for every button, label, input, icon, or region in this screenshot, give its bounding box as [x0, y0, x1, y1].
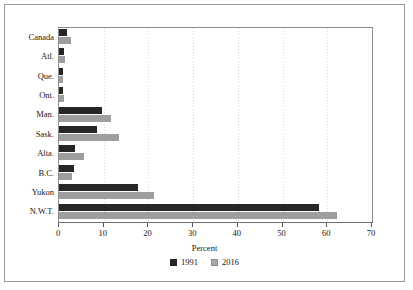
- bar-group: [59, 144, 372, 163]
- category-label-Canada: Canada: [5, 32, 54, 42]
- category-label-Que: Que.: [5, 71, 54, 81]
- bar-2016-Que: [59, 76, 63, 83]
- axis-tick-label: 20: [143, 228, 152, 238]
- category-axis-labels: CanadaAtl.Que.Ont.Man.Sask.Alta.B.C.Yuko…: [5, 27, 54, 223]
- bar-1991-Que: [59, 68, 63, 75]
- legend-item-2016[interactable]: 2016: [211, 257, 239, 267]
- bar-1991-Sask: [59, 126, 97, 133]
- legend-label: 2016: [222, 257, 239, 267]
- axis-tick: [371, 223, 372, 227]
- bar-group: [59, 67, 372, 86]
- category-label-Yukon: Yukon: [5, 187, 54, 197]
- category-label-Man: Man.: [5, 109, 54, 119]
- category-label-BC: B.C.: [5, 168, 54, 178]
- axis-tick-label: 50: [277, 228, 286, 238]
- axis-tick: [192, 223, 193, 227]
- bar-1991-Yukon: [59, 184, 138, 191]
- category-label-Alta: Alta.: [5, 148, 54, 158]
- bar-group: [59, 125, 372, 144]
- axis-tick-label: 30: [188, 228, 197, 238]
- bar-1991-BC: [59, 165, 74, 172]
- bar-group: [59, 106, 372, 125]
- axis-tick: [147, 223, 148, 227]
- light-square-swatch: [211, 259, 218, 266]
- x-axis-title: Percent: [5, 243, 404, 253]
- axis-tick: [58, 223, 59, 227]
- axis-tick: [237, 223, 238, 227]
- bar-2016-Man: [59, 115, 111, 122]
- bar-2016-NWT: [59, 212, 337, 219]
- bar-1991-Atl: [59, 48, 64, 55]
- category-label-Atl: Atl.: [5, 51, 54, 61]
- bar-2016-Yukon: [59, 192, 154, 199]
- axis-tick: [103, 223, 104, 227]
- bar-1991-Ont: [59, 87, 63, 94]
- chart-frame: CanadaAtl.Que.Ont.Man.Sask.Alta.B.C.Yuko…: [4, 4, 405, 282]
- axis-tick-label: 10: [98, 228, 107, 238]
- legend-label: 1991: [181, 257, 198, 267]
- bar-group: [59, 203, 372, 222]
- bar-2016-Ont: [59, 95, 64, 102]
- bar-1991-Canada: [59, 29, 67, 36]
- value-axis: 010203040506070: [58, 223, 373, 237]
- bar-group: [59, 47, 372, 66]
- category-label-NWT: N.W.T.: [5, 206, 54, 216]
- bar-2016-Alta: [59, 153, 84, 160]
- bar-group: [59, 183, 372, 202]
- bar-2016-Sask: [59, 134, 119, 141]
- bar-2016-Atl: [59, 56, 65, 63]
- bar-2016-BC: [59, 173, 72, 180]
- bar-1991-Man: [59, 107, 102, 114]
- bar-1991-NWT: [59, 204, 319, 211]
- category-label-Ont: Ont.: [5, 90, 54, 100]
- axis-tick-label: 70: [367, 228, 376, 238]
- bar-1991-Alta: [59, 145, 75, 152]
- axis-tick-label: 60: [322, 228, 331, 238]
- bar-group: [59, 164, 372, 183]
- axis-tick-label: 40: [233, 228, 242, 238]
- axis-tick-label: 0: [56, 228, 60, 238]
- bar-group: [59, 86, 372, 105]
- bar-group: [59, 28, 372, 47]
- axis-tick: [282, 223, 283, 227]
- axis-tick: [326, 223, 327, 227]
- plot-area: [58, 27, 373, 223]
- dark-square-swatch: [170, 259, 177, 266]
- chart-legend: 19912016: [5, 257, 404, 267]
- bar-2016-Canada: [59, 37, 71, 44]
- category-label-Sask: Sask.: [5, 129, 54, 139]
- legend-item-1991[interactable]: 1991: [170, 257, 198, 267]
